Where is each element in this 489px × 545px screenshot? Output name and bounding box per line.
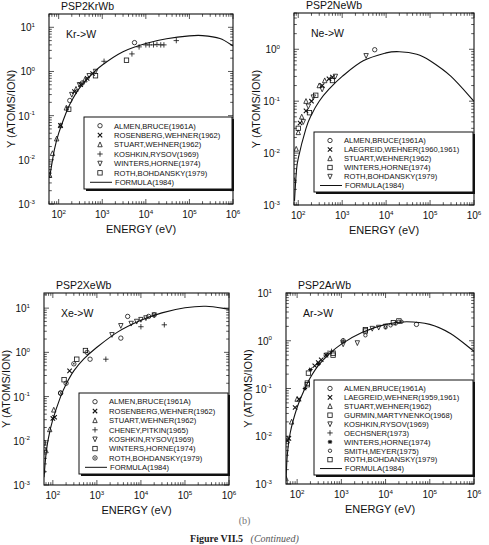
y-axis-label: Y (ATOMS/ION) [0, 350, 12, 428]
x-tick-label: 102 [46, 489, 61, 502]
legend-label: KOSHKIN,RYSOV(1969) [114, 150, 199, 159]
reaction-annotation: Ne->W [311, 27, 344, 39]
series-markers [103, 322, 167, 362]
legend: ALMEN,BRUCE(1961A)LAEGREID,WEHNER(1960,1… [314, 132, 475, 194]
legend-item: ROTH,BOHDANSKY(1979) [98, 169, 208, 178]
legend-item: STUART,WEHNER(1962) [328, 154, 432, 163]
y-tick-label: 10-3 [255, 478, 272, 491]
x-tick-label: 103 [95, 208, 110, 221]
y-tick-label: 10-3 [263, 199, 280, 212]
legend-item: ROTH,BOHDANSKY(1979) [93, 454, 203, 463]
legend-item: WINTERS,HORNE(1974) [328, 163, 431, 172]
reaction-annotation: Ar->W [303, 307, 333, 319]
y-tick-label: 10-2 [255, 430, 272, 443]
series-markers [101, 38, 179, 64]
legend-item: LAEGREID,WEHNER(1960,1961) [328, 145, 460, 154]
legend-label: STUART,WEHNER(1962) [344, 154, 432, 163]
x-tick-label: 104 [134, 489, 149, 502]
figure-note: (Continued) [251, 533, 299, 544]
legend-item: LAEGREID,WEHNER(1959,1961) [328, 393, 460, 402]
x-tick-label: 104 [139, 208, 154, 221]
reaction-annotation: Xe->W [61, 307, 93, 319]
y-axis-label: Y (ATOMS/ION) [250, 70, 262, 148]
legend-label: ROSENBERG,WEHNER(1962) [109, 407, 216, 416]
legend-label: ALMEN,BRUCE(1961A) [344, 136, 426, 145]
legend-item: GURMIN,MARTYNENKO(1968) [328, 411, 453, 420]
legend-label: WINTERS,HORNE(1974) [114, 159, 201, 168]
x-axis-label: ENERGY (eV) [106, 223, 176, 235]
legend-label: ROTH,BOHDANSKY(1979) [344, 172, 438, 181]
legend-item: ROSENBERG,WEHNER(1962) [98, 131, 221, 140]
y-axis-label: Y (ATOMS/ION) [242, 349, 254, 427]
x-tick-label: 104 [379, 209, 394, 222]
legend-label: GURMIN,MARTYNENKO(1968) [344, 411, 453, 420]
legend-label: WINTERS,HORNE(1974) [109, 444, 196, 453]
figure-canvas: PSP2KrWb10210310410510610-310-210-110010… [0, 0, 489, 545]
x-tick-label: 106 [467, 488, 482, 501]
legend-label: STUART,WEHNER(1962) [344, 402, 432, 411]
y-tick-label: 100 [20, 65, 35, 78]
chart-title: PSP2NeWb [306, 0, 362, 11]
legend-label: OECHSNER(1973) [344, 429, 409, 438]
x-tick-label: 102 [51, 208, 66, 221]
chart-panel-PSP2KrWb: PSP2KrWb10210310410510610-310-210-110010… [5, 0, 241, 235]
y-tick-label: 100 [265, 43, 280, 56]
legend-label: FORMULA(1984) [345, 181, 405, 190]
x-tick-label: 106 [222, 489, 237, 502]
legend: ALMEN,BRUCE(1961A)LAEGREID,WEHNER(1959,1… [314, 380, 475, 477]
legend-label: WINTERS,HORNE(1974) [344, 438, 431, 447]
chart-panel-PSP2ArWb: PSP2ArWb10210310410510610-310-210-110010… [242, 279, 482, 515]
series-markers [364, 320, 404, 337]
series-markers [58, 314, 150, 395]
x-tick-label: 106 [226, 208, 241, 221]
chart-title: PSP2KrWb [61, 0, 114, 12]
reaction-annotation: Kr->W [66, 28, 96, 40]
y-tick-label: 101 [257, 287, 272, 300]
series-markers [373, 48, 377, 52]
legend-label: ROTH,BOHDANSKY(1979) [109, 454, 203, 463]
x-tick-label: 103 [90, 489, 105, 502]
legend-label: LAEGREID,WEHNER(1959,1961) [344, 393, 460, 402]
series-markers [305, 320, 395, 385]
legend-label: KOSHKIN,RYSOV(1969) [109, 435, 194, 444]
y-tick-label: 10-1 [13, 390, 30, 403]
y-tick-label: 101 [15, 302, 30, 315]
x-tick-label: 105 [422, 488, 437, 501]
y-tick-label: 10-1 [255, 382, 272, 395]
y-tick-label: 10-2 [13, 434, 30, 447]
legend: ALMEN,BRUCE(1961A)ROSENBERG,WEHNER(1962)… [79, 393, 230, 476]
y-tick-label: 10-3 [18, 198, 35, 211]
legend-label: STUART,WEHNER(1962) [109, 416, 197, 425]
y-tick-label: 10-2 [263, 147, 280, 160]
y-tick-label: 10-1 [18, 109, 35, 122]
y-tick-label: 10-1 [263, 95, 280, 108]
legend-item: WINTERS,HORNE(1974) [93, 444, 196, 453]
legend-item: WINTERS,HORNE(1974) [98, 159, 201, 168]
legend: ALMEN,BRUCE(1961A)ROSENBERG,WEHNER(1962)… [84, 117, 234, 191]
legend-label: KOSHKIN,RYSOV(1969) [344, 420, 429, 429]
x-tick-label: 105 [178, 489, 193, 502]
legend-label: ALMEN,BRUCE(1961A) [114, 122, 196, 131]
legend-item: STUART,WEHNER(1962) [328, 402, 432, 411]
figure-number: Figure VII.5 [190, 533, 243, 544]
legend-label: ROTH,BOHDANSKY(1979) [344, 455, 438, 464]
y-tick-label: 10-3 [13, 479, 30, 492]
legend-label: FORMULA(1984) [115, 178, 175, 187]
legend-label: CHENEY,PITKIN(1965) [109, 426, 189, 435]
figure-caption: Figure VII.5 (Continued) [0, 533, 489, 544]
x-axis-label: ENERGY (eV) [345, 503, 415, 515]
legend-label: ALMEN,BRUCE(1961A) [344, 384, 426, 393]
series-markers [47, 77, 87, 177]
legend-item: ROTH,BOHDANSKY(1979) [328, 455, 438, 464]
y-tick-label: 100 [15, 346, 30, 359]
x-tick-label: 102 [291, 209, 306, 222]
y-tick-label: 100 [257, 334, 272, 347]
legend-item: ROSENBERG,WEHNER(1962) [93, 407, 216, 416]
legend-label: STUART,WEHNER(1962) [114, 140, 202, 149]
series-markers [67, 58, 129, 111]
series-markers [323, 338, 346, 358]
legend-label: FORMULA(1984) [110, 463, 170, 472]
legend-item: ROTH,BOHDANSKY(1979) [328, 172, 438, 181]
x-tick-label: 105 [423, 209, 438, 222]
series-markers [296, 78, 335, 130]
